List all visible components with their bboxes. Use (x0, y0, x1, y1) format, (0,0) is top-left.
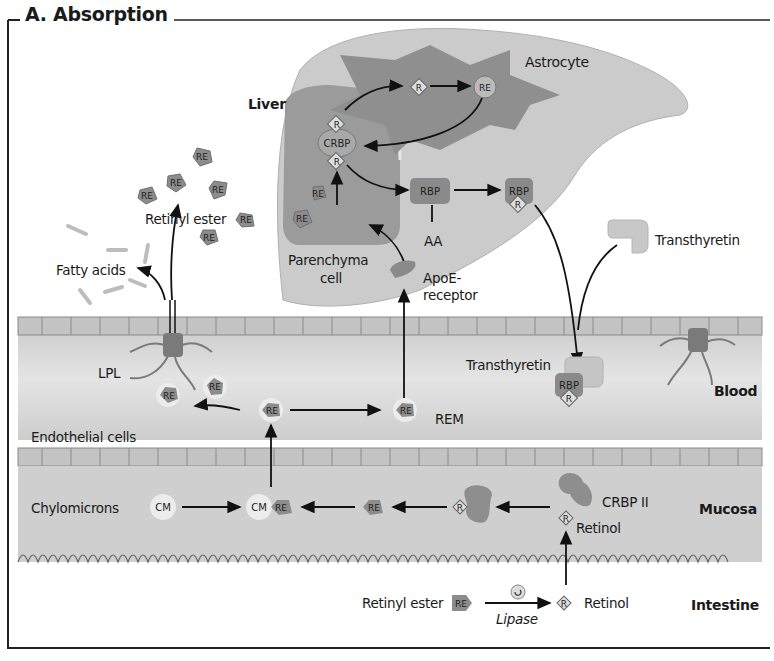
svg-text:RE: RE (400, 406, 412, 416)
crbp-ii-bound-shape (464, 485, 492, 523)
svg-text:RE: RE (141, 191, 153, 201)
label-chylomicrons: Chylomicrons (31, 500, 119, 516)
svg-text:RE: RE (266, 406, 278, 416)
svg-text:R: R (561, 599, 567, 609)
label-aa: AA (424, 233, 442, 249)
label-crbp-ii: CRBP II (602, 494, 648, 510)
label-retinol-intestine: Retinol (584, 595, 629, 611)
label-apoe-line2: receptor (423, 287, 478, 303)
label-apoe-line1: ApoE- (423, 270, 461, 286)
label-transthyretin-free: Transthyretin (655, 232, 740, 248)
svg-text:R: R (457, 503, 463, 513)
label-retinyl-ester-top: Retinyl ester (145, 211, 226, 227)
svg-text:RE: RE (170, 178, 182, 188)
svg-text:R: R (563, 514, 569, 524)
svg-text:CM: CM (251, 502, 267, 513)
svg-text:RE: RE (368, 503, 380, 513)
svg-text:RBP: RBP (559, 380, 579, 391)
svg-text:CM: CM (155, 502, 171, 513)
svg-text:RBP: RBP (420, 186, 440, 197)
svg-text:R: R (515, 200, 521, 210)
svg-text:RE: RE (209, 382, 221, 392)
svg-text:RE: RE (212, 185, 224, 195)
region-label-mucosa: Mucosa (699, 501, 757, 517)
region-label-intestine: Intestine (691, 597, 759, 613)
absorption-diagram: R CRBP R R RE RBP RBP R RE RE RE RE RE R… (0, 0, 774, 661)
label-lpl: LPL (98, 365, 120, 381)
label-rem: REM (435, 411, 464, 427)
label-astrocyte: Astrocyte (525, 54, 589, 70)
svg-text:RE: RE (455, 599, 467, 609)
svg-text:RE: RE (163, 391, 175, 401)
figure-title: A. Absorption (23, 3, 174, 25)
svg-text:RBP: RBP (509, 186, 529, 197)
svg-text:RE: RE (203, 233, 215, 243)
svg-text:R: R (416, 83, 422, 93)
endothelial-row-bottom (18, 448, 762, 466)
label-endothelial-cells: Endothelial cells (31, 429, 136, 445)
region-label-blood: Blood (714, 383, 757, 399)
svg-text:R: R (334, 157, 340, 167)
label-lipase: Lipase (496, 611, 538, 627)
label-parenchyma-line2: cell (320, 270, 342, 286)
svg-text:R: R (566, 394, 572, 404)
endothelial-row-top (18, 317, 762, 335)
svg-text:RE: RE (196, 152, 208, 162)
label-transthyretin-blood: Transthyretin (466, 357, 551, 373)
region-label-liver: Liver (248, 96, 286, 112)
label-retinyl-ester-intestine: Retinyl ester (362, 595, 443, 611)
svg-text:RE: RE (240, 215, 252, 225)
diagram-frame: R CRBP R R RE RBP RBP R RE RE RE RE RE R… (0, 0, 774, 661)
svg-text:R: R (334, 120, 340, 130)
svg-text:RE: RE (296, 214, 308, 224)
svg-text:RE: RE (312, 189, 324, 199)
label-retinol-mucosa: Retinol (576, 520, 621, 536)
svg-text:CRBP: CRBP (324, 138, 351, 149)
label-fatty-acids: Fatty acids (56, 262, 125, 278)
blood-band (18, 318, 762, 440)
intestine-molecules (452, 585, 571, 611)
label-parenchyma-line1: Parenchyma (288, 252, 368, 268)
svg-text:RE: RE (479, 83, 491, 93)
svg-text:RE: RE (275, 503, 287, 513)
mucosa-band (18, 466, 762, 562)
